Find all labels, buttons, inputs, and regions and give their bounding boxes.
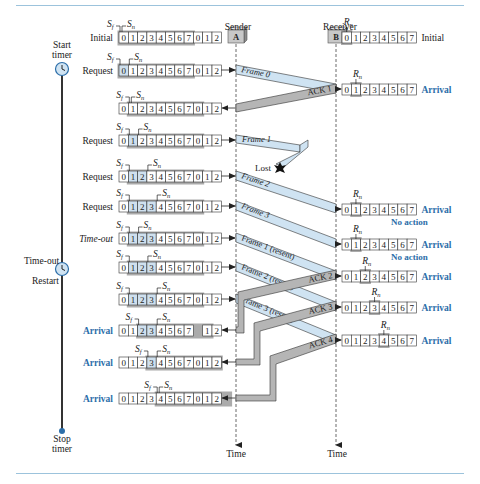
svg-text:1: 1 <box>131 33 136 43</box>
svg-text:3: 3 <box>372 303 377 313</box>
svg-text:0: 0 <box>121 295 126 305</box>
svg-text:5: 5 <box>391 85 396 95</box>
svg-text:Sf: Sf <box>116 220 124 231</box>
svg-text:2: 2 <box>363 272 368 282</box>
svg-text:4: 4 <box>159 104 164 114</box>
svg-text:2: 2 <box>214 33 219 43</box>
svg-text:Sn: Sn <box>134 52 142 63</box>
svg-text:1: 1 <box>354 303 359 313</box>
svg-text:0: 0 <box>196 33 201 43</box>
svg-text:Arrival: Arrival <box>421 240 451 250</box>
svg-text:4: 4 <box>159 326 164 336</box>
svg-text:Sf: Sf <box>135 344 143 355</box>
svg-text:1: 1 <box>131 104 136 114</box>
svg-text:1: 1 <box>131 358 136 368</box>
svg-text:4: 4 <box>159 136 164 146</box>
svg-text:0: 0 <box>344 272 349 282</box>
svg-text:Frame 1: Frame 1 <box>241 134 271 144</box>
svg-text:2: 2 <box>140 172 145 182</box>
sender-window-row-1: 01234567012RequestSfSn <box>82 52 235 79</box>
svg-text:Sn: Sn <box>162 344 170 355</box>
svg-text:7: 7 <box>187 136 192 146</box>
svg-text:Initial: Initial <box>421 33 444 43</box>
svg-text:0: 0 <box>121 263 126 273</box>
svg-text:1: 1 <box>205 33 210 43</box>
start-timer-clock-icon <box>56 63 69 76</box>
sender-window-row-0: 01234567012InitialSfSn <box>90 19 221 46</box>
sender-window-row-2: 01234567012SfSn <box>116 90 236 117</box>
svg-text:3: 3 <box>149 66 154 76</box>
svg-text:1: 1 <box>205 358 210 368</box>
svg-text:6: 6 <box>177 172 182 182</box>
svg-text:2: 2 <box>214 202 219 212</box>
svg-text:1: 1 <box>205 172 210 182</box>
svg-text:2: 2 <box>140 295 145 305</box>
svg-text:3: 3 <box>372 240 377 250</box>
svg-text:6: 6 <box>400 272 405 282</box>
svg-text:Sf: Sf <box>116 122 124 133</box>
svg-text:Lost: Lost <box>255 163 272 173</box>
svg-text:7: 7 <box>410 272 415 282</box>
svg-text:7: 7 <box>187 104 192 114</box>
svg-text:Sn: Sn <box>153 158 161 169</box>
svg-text:1: 1 <box>131 136 136 146</box>
svg-text:Arrival: Arrival <box>421 205 451 215</box>
svg-text:3: 3 <box>149 295 154 305</box>
restart-label: Restart <box>32 276 59 286</box>
svg-text:3: 3 <box>372 33 377 43</box>
svg-text:2: 2 <box>214 394 219 404</box>
svg-text:1: 1 <box>205 234 210 244</box>
svg-text:5: 5 <box>391 205 396 215</box>
svg-text:Sf: Sf <box>107 19 115 30</box>
timeout-label: Time-out <box>24 256 59 266</box>
svg-text:No action: No action <box>391 252 428 262</box>
svg-text:7: 7 <box>187 358 192 368</box>
svg-text:0: 0 <box>196 358 201 368</box>
svg-text:Sf: Sf <box>126 312 134 323</box>
svg-text:7: 7 <box>187 295 192 305</box>
receiver-window-row-5: 01234567ArrivalRn <box>336 287 452 315</box>
svg-text:No action: No action <box>391 217 428 227</box>
svg-text:0: 0 <box>121 202 126 212</box>
svg-text:4: 4 <box>159 263 164 273</box>
svg-text:Sn: Sn <box>164 380 172 391</box>
svg-text:3: 3 <box>372 272 377 282</box>
svg-text:3: 3 <box>149 263 154 273</box>
svg-text:5: 5 <box>391 240 396 250</box>
svg-text:4: 4 <box>382 303 387 313</box>
start-timer-label-1: Start <box>44 40 80 50</box>
svg-text:4: 4 <box>382 85 387 95</box>
svg-text:5: 5 <box>168 172 173 182</box>
svg-text:2: 2 <box>214 358 219 368</box>
svg-text:1: 1 <box>205 104 210 114</box>
svg-text:1: 1 <box>131 66 136 76</box>
svg-text:Sf: Sf <box>116 188 124 199</box>
svg-text:7: 7 <box>410 85 415 95</box>
svg-text:2: 2 <box>214 295 219 305</box>
svg-text:4: 4 <box>159 66 164 76</box>
svg-text:A: A <box>233 32 240 42</box>
svg-text:3: 3 <box>372 336 377 346</box>
svg-text:1: 1 <box>354 240 359 250</box>
svg-text:6: 6 <box>400 85 405 95</box>
svg-text:4: 4 <box>159 234 164 244</box>
svg-text:1: 1 <box>205 66 210 76</box>
svg-text:1: 1 <box>205 295 210 305</box>
svg-text:3: 3 <box>149 202 154 212</box>
svg-text:2: 2 <box>363 85 368 95</box>
svg-text:1: 1 <box>131 202 136 212</box>
svg-text:7: 7 <box>187 234 192 244</box>
svg-text:6: 6 <box>177 394 182 404</box>
sender-window-row-3: 01234567012RequestSfSn <box>82 122 235 149</box>
svg-text:Rn: Rn <box>380 320 390 331</box>
stop-timer-label-2: timer <box>44 444 80 454</box>
svg-text:3: 3 <box>372 85 377 95</box>
svg-text:Sn: Sn <box>136 90 144 101</box>
svg-text:2: 2 <box>140 104 145 114</box>
svg-text:1: 1 <box>131 263 136 273</box>
svg-text:Request: Request <box>82 172 113 182</box>
svg-text:7: 7 <box>410 240 415 250</box>
svg-text:ACK 2: ACK 2 <box>308 270 334 284</box>
svg-text:1: 1 <box>131 234 136 244</box>
svg-text:2: 2 <box>214 326 219 336</box>
